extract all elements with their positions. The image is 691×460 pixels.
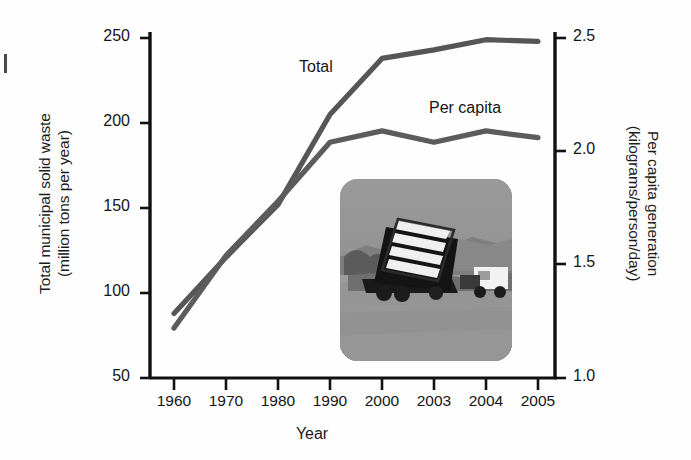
x-tick-2004: 2004 [458, 392, 514, 410]
y-right-tick-1-5: 1.5 [573, 253, 625, 271]
y-right-tick-1-0: 1.0 [573, 367, 625, 385]
x-tick-2005: 2005 [510, 392, 566, 410]
x-tick-2003: 2003 [406, 392, 462, 410]
inset-photo-landfill [340, 179, 512, 361]
y-right-tick-2-5: 2.5 [573, 27, 625, 45]
y-left-tick-250: 250 [78, 27, 130, 45]
y-left-axis-title: Total municipal solid waste (million ton… [36, 89, 73, 319]
x-tick-1990: 1990 [302, 392, 358, 410]
x-axis-ticks [174, 378, 538, 390]
y-left-tick-50: 50 [78, 367, 130, 385]
series-label-per-capita: Per capita [429, 99, 501, 117]
x-tick-1960: 1960 [146, 392, 202, 410]
y-left-tick-100: 100 [78, 282, 130, 300]
y-left-tick-200: 200 [78, 112, 130, 130]
y-right-axis-title-line1: Per capita generation [645, 131, 662, 276]
y-left-axis-title-line2: (million tons per year) [55, 130, 72, 277]
y-right-axis-title-line2: (kilograms/person/day) [626, 126, 643, 281]
x-tick-1970: 1970 [198, 392, 254, 410]
series-label-total: Total [299, 58, 333, 76]
chart-figure: 250 200 150 100 50 2.5 2.0 1.5 1.0 1960 … [0, 0, 691, 460]
y-right-tick-2-0: 2.0 [573, 140, 625, 158]
y-left-axis-title-line1: Total municipal solid waste [36, 113, 53, 294]
y-right-axis-title: Per capita generation (kilograms/person/… [624, 89, 661, 319]
x-axis-title: Year [296, 424, 328, 443]
y-left-tick-150: 150 [78, 197, 130, 215]
x-tick-2000: 2000 [354, 392, 410, 410]
x-tick-1980: 1980 [250, 392, 306, 410]
